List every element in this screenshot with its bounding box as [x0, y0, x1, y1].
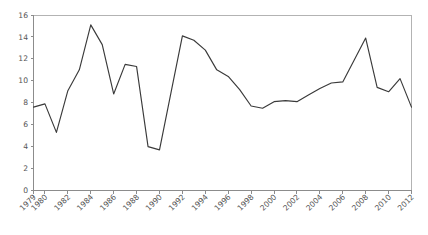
line-chart: 0246810121416 19791980198219841986198819…: [0, 0, 428, 235]
series-group: [34, 25, 412, 150]
x-tick-label: 2006: [327, 192, 347, 212]
y-tick-label: 4: [23, 142, 28, 151]
x-tick-label: 1982: [52, 192, 72, 212]
x-tick-label: 2008: [350, 192, 370, 212]
y-tick-label: 12: [18, 54, 28, 63]
y-tick-label: 6: [23, 120, 28, 129]
y-tick-group: 0246810121416: [18, 11, 33, 196]
x-tick-label: 1994: [190, 192, 210, 212]
x-tick-label: 2010: [373, 192, 393, 212]
x-tick-label: 1996: [213, 192, 233, 212]
y-tick-label: 8: [23, 98, 28, 107]
x-tick-label: 1992: [167, 192, 187, 212]
plot-frame: [33, 15, 412, 191]
x-tick-group: 1979198019821984198619881990199219941996…: [18, 191, 416, 213]
chart-canvas: 0246810121416 19791980198219841986198819…: [0, 0, 428, 235]
x-tick-label: 1984: [75, 192, 95, 212]
series-line: [34, 25, 412, 150]
y-tick-label: 2: [23, 164, 28, 173]
x-tick-label: 2012: [396, 192, 416, 212]
x-tick-label: 1990: [144, 192, 164, 212]
x-tick-label: 1986: [98, 192, 118, 212]
x-tick-label: 1998: [236, 192, 256, 212]
y-tick-label: 16: [18, 11, 28, 20]
x-tick-label: 1988: [121, 192, 141, 212]
y-tick-label: 0: [23, 186, 28, 195]
x-tick-label: 2004: [304, 192, 324, 212]
y-tick-label: 14: [18, 33, 28, 42]
x-tick-label: 2000: [258, 192, 278, 212]
y-tick-label: 10: [18, 76, 28, 85]
x-tick-label: 2002: [281, 192, 301, 212]
